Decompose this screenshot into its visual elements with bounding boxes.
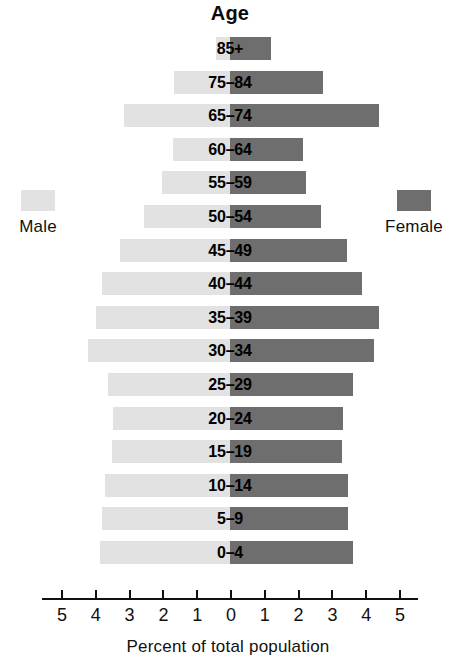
bar-category-label: 85+ bbox=[165, 37, 295, 60]
legend-swatch-male-icon bbox=[21, 190, 55, 211]
legend-item-male: Male bbox=[0, 190, 86, 237]
bar-category-label: 30–34 bbox=[165, 339, 295, 362]
bar-row: 5–9 bbox=[0, 507, 456, 530]
bar-row: 60–64 bbox=[0, 138, 456, 161]
bar-row: 45–49 bbox=[0, 239, 456, 262]
x-axis-tick bbox=[196, 590, 198, 599]
bar-row: 30–34 bbox=[0, 339, 456, 362]
bar-category-label: 60–64 bbox=[165, 138, 295, 161]
x-axis-tick bbox=[162, 590, 164, 599]
bar-category-label: 35–39 bbox=[165, 306, 295, 329]
bar-row: 20–24 bbox=[0, 407, 456, 430]
bar-category-label: 40–44 bbox=[165, 272, 295, 295]
x-axis-caption: Percent of total population bbox=[0, 637, 456, 657]
bar-category-label: 0–4 bbox=[165, 541, 295, 564]
bar-category-label: 55–59 bbox=[165, 171, 295, 194]
bar-row: 75–84 bbox=[0, 71, 456, 94]
bar-category-label: 75–84 bbox=[165, 71, 295, 94]
bar-row: 35–39 bbox=[0, 306, 456, 329]
legend-item-female: Female bbox=[366, 190, 456, 237]
bar-category-label: 5–9 bbox=[165, 507, 295, 530]
x-axis-tick bbox=[298, 590, 300, 599]
plot-area: 85+75–8465–7460–6455–5950–5445–4940–4435… bbox=[0, 30, 456, 590]
x-axis-tick bbox=[230, 590, 232, 599]
bar-category-label: 65–74 bbox=[165, 104, 295, 127]
x-axis-tick-label: 5 bbox=[380, 605, 420, 626]
x-axis-tick bbox=[129, 590, 131, 599]
bar-row: 85+ bbox=[0, 37, 456, 60]
x-axis-tick bbox=[399, 590, 401, 599]
bar-row: 25–29 bbox=[0, 373, 456, 396]
bar-category-label: 10–14 bbox=[165, 474, 295, 497]
x-axis-tick bbox=[365, 590, 367, 599]
x-axis-tick bbox=[95, 590, 97, 599]
bar-row: 40–44 bbox=[0, 272, 456, 295]
legend-label-male: Male bbox=[0, 217, 86, 237]
chart-title: Age bbox=[0, 2, 456, 25]
bar-category-label: 25–29 bbox=[165, 373, 295, 396]
bar-row: 10–14 bbox=[0, 474, 456, 497]
x-axis-tick bbox=[331, 590, 333, 599]
chart-title-text: Age bbox=[211, 2, 249, 24]
bar-row: 65–74 bbox=[0, 104, 456, 127]
bar-category-label: 45–49 bbox=[165, 239, 295, 262]
bar-category-label: 20–24 bbox=[165, 407, 295, 430]
x-axis-tick bbox=[61, 590, 63, 599]
legend-label-female: Female bbox=[366, 217, 456, 237]
bar-category-label: 50–54 bbox=[165, 205, 295, 228]
legend-swatch-female-icon bbox=[397, 190, 431, 211]
bar-row: 15–19 bbox=[0, 440, 456, 463]
bar-category-label: 15–19 bbox=[165, 440, 295, 463]
x-axis-tick bbox=[264, 590, 266, 599]
bar-row: 0–4 bbox=[0, 541, 456, 564]
